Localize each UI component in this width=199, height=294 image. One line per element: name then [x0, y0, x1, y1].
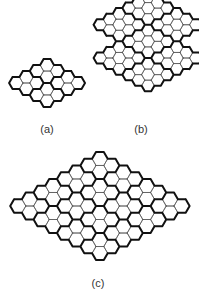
- figure-label-a: (a): [40, 123, 53, 135]
- figure-b: [94, 0, 199, 91]
- figure-a: [9, 59, 85, 107]
- hex-tiling-diagram: [0, 0, 199, 294]
- figure-label-b: (b): [134, 123, 147, 135]
- figure-label-c: (c): [92, 277, 105, 289]
- figure-c: [10, 152, 189, 260]
